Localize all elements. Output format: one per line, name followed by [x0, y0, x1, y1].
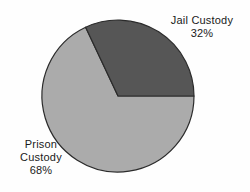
pie-chart-figure: Jail Custody 32% Prison Custody 68% — [0, 0, 250, 192]
slice-label-prison-custody-percent: 68% — [2, 164, 80, 177]
slice-label-prison-custody: Prison Custody 68% — [2, 138, 80, 177]
slice-label-jail-custody-name: Jail Custody — [157, 14, 247, 27]
slice-label-prison-custody-name-line2: Custody — [2, 151, 80, 164]
slice-label-jail-custody-percent: 32% — [157, 27, 247, 40]
slice-label-prison-custody-name-line1: Prison — [2, 138, 80, 151]
slice-label-jail-custody: Jail Custody 32% — [157, 14, 247, 40]
